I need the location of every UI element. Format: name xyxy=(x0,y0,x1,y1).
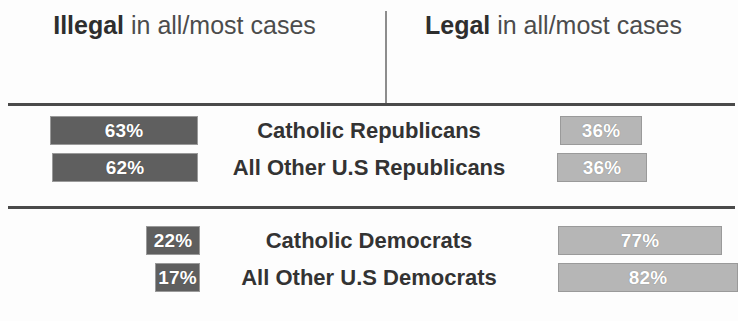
bar-value-illegal: 22% xyxy=(154,230,193,252)
header-label-illegal: Illegal in all/most cases xyxy=(53,10,316,41)
bar-value-legal: 77% xyxy=(621,230,660,252)
group-republicans: 63% Catholic Republicans 36% 62% All Oth… xyxy=(0,112,738,186)
section-rule-middle xyxy=(8,206,735,209)
bar-value-illegal: 63% xyxy=(105,120,144,142)
header-column-illegal: Illegal in all/most cases xyxy=(0,0,369,104)
header-emphasis-legal: Legal xyxy=(425,11,490,39)
bar-value-legal: 82% xyxy=(629,267,668,289)
table-row: 17% All Other U.S Democrats 82% xyxy=(0,259,738,296)
header-rest-legal: in all/most cases xyxy=(490,11,682,39)
table-row: 62% All Other U.S Republicans 36% xyxy=(0,149,738,186)
bar-legal: 77% xyxy=(558,226,722,255)
bar-value-illegal: 62% xyxy=(106,157,145,179)
bar-legal: 36% xyxy=(560,116,642,145)
table-row: 63% Catholic Republicans 36% xyxy=(0,112,738,149)
bar-illegal: 17% xyxy=(155,263,200,292)
group-democrats: 22% Catholic Democrats 77% 17% All Other… xyxy=(0,222,738,296)
header-vertical-divider xyxy=(385,11,387,104)
opinion-bar-chart: Illegal in all/most cases Legal in all/m… xyxy=(0,0,738,321)
bar-value-legal: 36% xyxy=(582,120,621,142)
bar-legal: 36% xyxy=(557,153,647,182)
chart-header: Illegal in all/most cases Legal in all/m… xyxy=(0,0,738,104)
bar-illegal: 62% xyxy=(52,153,198,182)
bar-illegal: 22% xyxy=(146,226,200,255)
header-column-legal: Legal in all/most cases xyxy=(369,0,738,104)
bar-value-legal: 36% xyxy=(583,157,622,179)
header-label-legal: Legal in all/most cases xyxy=(425,10,682,41)
bar-legal: 82% xyxy=(558,263,738,292)
bar-value-illegal: 17% xyxy=(158,267,197,289)
header-emphasis-illegal: Illegal xyxy=(53,11,124,39)
section-rule-top xyxy=(8,103,735,106)
bar-illegal: 63% xyxy=(50,116,198,145)
header-rest-illegal: in all/most cases xyxy=(124,11,316,39)
table-row: 22% Catholic Democrats 77% xyxy=(0,222,738,259)
